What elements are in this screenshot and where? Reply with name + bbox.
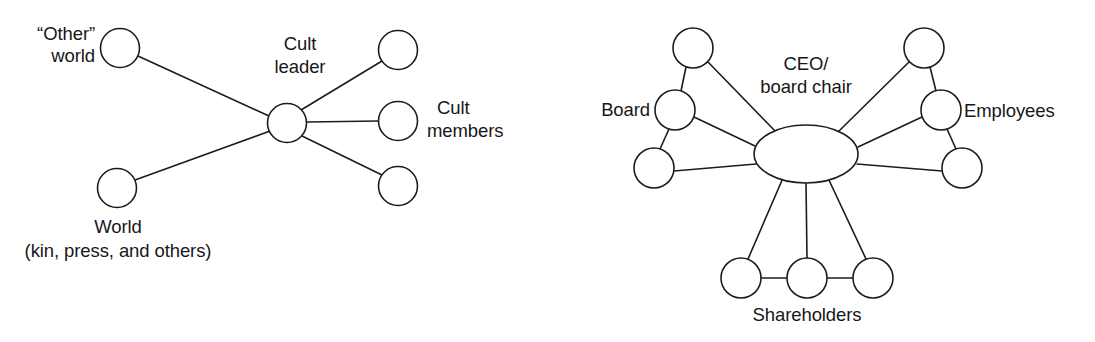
edge-leader-to-member-mid	[307, 121, 379, 122]
network-diagram-figure: “Other”worldCultleaderCultmembersWorld(k…	[0, 0, 1095, 342]
edge-board-top-to-hub	[708, 62, 777, 133]
edge-board-mid-to-hub	[694, 117, 755, 146]
shareholder-node-left	[721, 258, 761, 298]
label-shareholders: Shareholders	[753, 304, 862, 325]
shareholder-node-middle	[787, 258, 827, 298]
other-world-node	[101, 29, 140, 68]
label-hub: leader	[275, 56, 326, 77]
label-world: World	[94, 216, 141, 237]
label-world: (kin, press, and others)	[25, 240, 212, 261]
label-members: Cult	[437, 97, 470, 118]
edge-employee-mid-to-hub	[858, 117, 922, 147]
employee-node-middle	[921, 90, 961, 130]
edge-employee-top-to-hub	[838, 62, 909, 132]
cult-leader-node	[268, 104, 307, 143]
edge-hub-to-shareholder-right	[828, 178, 866, 259]
edge-employee-mid-to-employee-bot	[947, 129, 956, 149]
edge-other-world-to-leader	[138, 56, 269, 116]
cult-member-node-middle	[379, 102, 418, 141]
label-hub: CEO/	[784, 53, 830, 74]
edge-employee-top-to-employee-mid	[930, 67, 936, 91]
label-members: members	[427, 120, 503, 141]
edge-hub-to-shareholder-left	[748, 178, 783, 259]
Cult leader network: “Other”worldCultleaderCultmembersWorld(k…	[25, 23, 504, 261]
cult-member-node-top	[379, 31, 418, 70]
label-other-world: world	[50, 45, 95, 66]
employee-node-top	[904, 28, 944, 68]
ceo-board-chair-node	[754, 125, 858, 183]
board-node-top	[673, 28, 713, 68]
edge-world-to-leader	[135, 131, 270, 180]
world-node	[98, 169, 137, 208]
edge-board-mid-to-board-bottom	[660, 129, 669, 149]
board-node-bottom	[634, 148, 674, 188]
cult-member-node-bottom	[379, 167, 418, 206]
label-other-world: “Other”	[37, 23, 95, 44]
edge-leader-to-member-bottom	[302, 136, 382, 175]
shareholder-node-right	[853, 258, 893, 298]
edge-board-top-to-board-mid	[681, 67, 686, 91]
employee-node-bottom	[942, 148, 982, 188]
edge-hub-to-shareholder-mid	[806, 183, 807, 258]
label-board: Board	[601, 99, 650, 120]
edge-employee-bottom-to-hub	[857, 164, 942, 171]
CEO / board chair network: BoardCEO/board chairEmployeesShareholder…	[601, 28, 1055, 325]
board-node-middle	[655, 90, 695, 130]
label-hub: board chair	[760, 76, 851, 97]
edge-board-bottom-to-hub	[674, 164, 756, 171]
diagram-canvas: “Other”worldCultleaderCultmembersWorld(k…	[0, 0, 1095, 342]
label-employees: Employees	[964, 100, 1055, 121]
label-hub: Cult	[284, 33, 317, 54]
